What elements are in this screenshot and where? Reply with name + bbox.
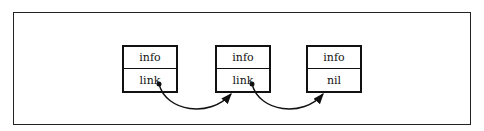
pointer-arrows <box>0 0 484 131</box>
arrow-1 <box>157 82 232 109</box>
arrow-2 <box>250 82 324 109</box>
